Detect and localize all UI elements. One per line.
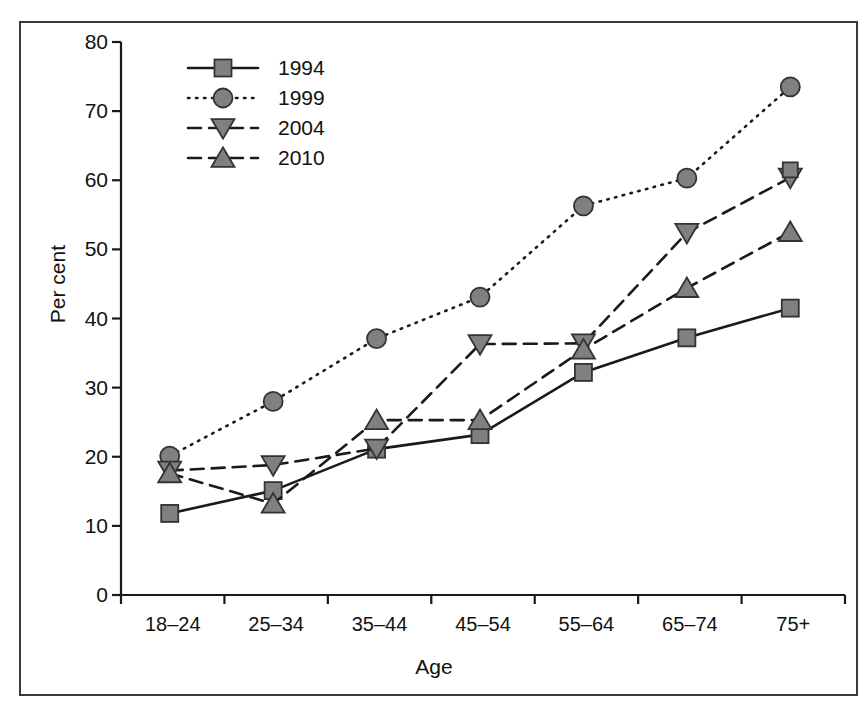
x-tick-label: 45–54 <box>455 613 511 636</box>
legend-key-2010 <box>186 146 260 170</box>
x-tick-label: 35–44 <box>352 613 408 636</box>
legend-key-glyph-1994 <box>186 56 260 80</box>
legend-item-1999[interactable]: 1999 <box>186 83 325 113</box>
legend-marker-1999 <box>213 88 232 107</box>
x-tick-label: 25–34 <box>248 613 304 636</box>
legend-item-2004[interactable]: 2004 <box>186 113 325 143</box>
x-tick-label: 75+ <box>776 613 810 636</box>
legend-label-1999: 1999 <box>278 86 325 110</box>
legend-label-2010: 2010 <box>278 146 325 170</box>
legend-key-glyph-2010 <box>186 146 260 170</box>
legend-item-2010[interactable]: 2010 <box>186 143 325 173</box>
legend-key-glyph-1999 <box>186 86 260 110</box>
chart-figure: Per cent Age 01020304050607080 18–2425–3… <box>0 0 868 708</box>
legend-marker-1994 <box>215 60 232 77</box>
chart-legend: 1994199920042010 <box>186 53 325 173</box>
x-tick-label: 55–64 <box>559 613 615 636</box>
x-tick-label: 65–74 <box>662 613 718 636</box>
legend-key-1999 <box>186 86 260 110</box>
legend-label-2004: 2004 <box>278 116 325 140</box>
legend-key-1994 <box>186 56 260 80</box>
x-tick-label: 18–24 <box>145 613 201 636</box>
legend-label-1994: 1994 <box>278 56 325 80</box>
x-tick-labels: 18–2425–3435–4445–5455–6465–7475+ <box>0 0 868 708</box>
legend-key-2004 <box>186 116 260 140</box>
legend-key-glyph-2004 <box>186 116 260 140</box>
legend-item-1994[interactable]: 1994 <box>186 53 325 83</box>
